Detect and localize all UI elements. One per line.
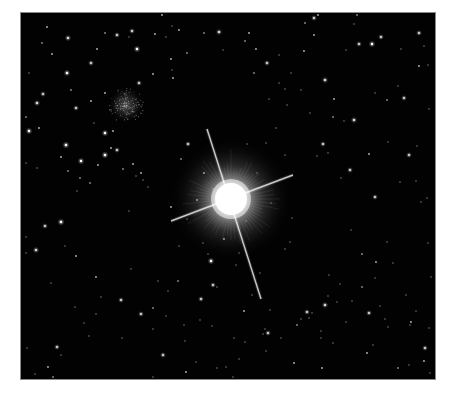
- star-field-photo: [20, 12, 436, 380]
- globular-cluster: [108, 87, 144, 123]
- night-sky-image: [21, 13, 436, 380]
- bright-star: [169, 129, 293, 299]
